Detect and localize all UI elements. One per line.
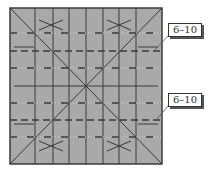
step-label-bottom: 6–10 <box>168 93 202 107</box>
crease-lines <box>10 8 162 164</box>
step-label-top: 6–10 <box>168 23 202 37</box>
